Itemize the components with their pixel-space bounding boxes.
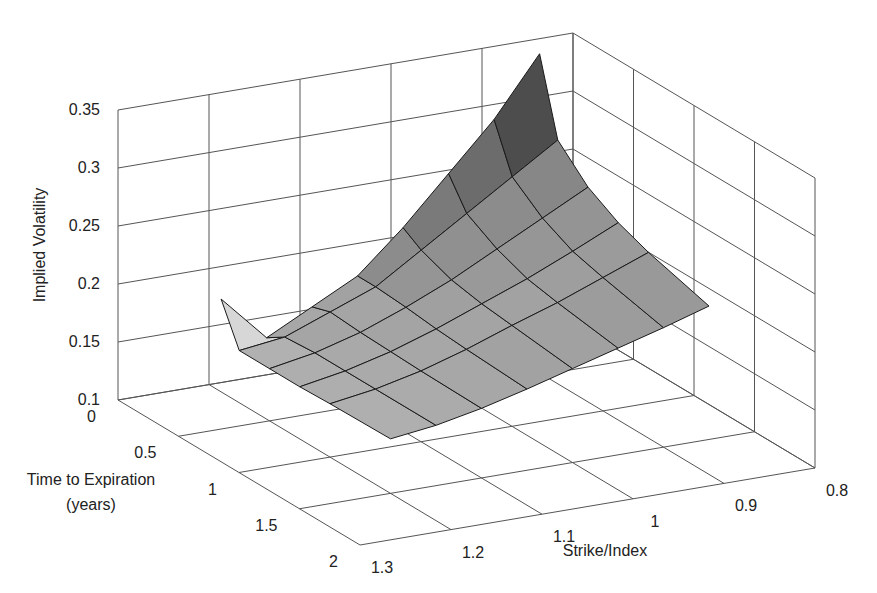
z-axis-label: Implied Volatility <box>31 188 48 303</box>
z-tick-label: 0.2 <box>78 275 100 292</box>
floor-grid-line <box>300 432 755 509</box>
k-tick-label: 1 <box>651 513 660 530</box>
z-tick-label: 0.1 <box>78 391 100 408</box>
volatility-surface-plot: 0.10.150.20.250.30.3500.511.521.31.21.11… <box>0 0 877 593</box>
k-tick-label: 0.9 <box>735 497 757 514</box>
k-tick-label: 1.3 <box>371 559 393 576</box>
t-tick-label: 0.5 <box>134 444 156 461</box>
t-axis-label-line1: Time to Expiration <box>27 471 155 488</box>
z-tick-label: 0.25 <box>69 217 100 234</box>
t-tick-label: 0 <box>87 408 96 425</box>
k-axis-label: Strike/Index <box>563 542 647 559</box>
z-tick-label: 0.35 <box>69 101 100 118</box>
t-axis-label-line2: (years) <box>66 496 116 513</box>
t-tick-label: 1 <box>208 481 217 498</box>
z-tick-label: 0.15 <box>69 333 100 350</box>
z-tick-label: 0.3 <box>78 159 100 176</box>
t-tick-label: 1.5 <box>255 517 277 534</box>
k-tick-label: 1.2 <box>462 544 484 561</box>
k-tick-label: 0.8 <box>826 482 848 499</box>
t-tick-label: 2 <box>329 553 338 570</box>
surface-mesh <box>221 54 709 439</box>
back-wall-grid-line <box>118 33 573 110</box>
